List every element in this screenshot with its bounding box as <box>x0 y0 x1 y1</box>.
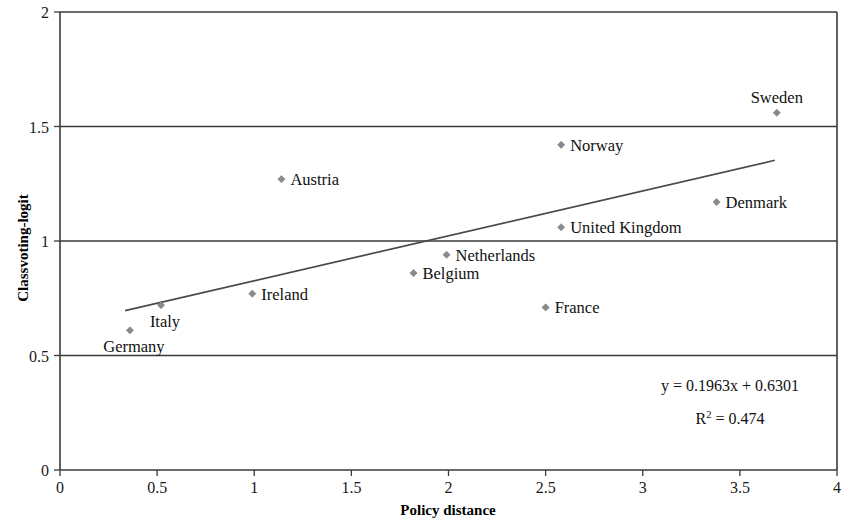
data-point-label: Italy <box>150 312 181 331</box>
data-point-labels: GermanyItalyIrelandAustriaBelgiumNetherl… <box>103 88 803 357</box>
y-axis-title: Classvoting-logit <box>15 194 31 302</box>
data-point-label: Belgium <box>423 264 480 283</box>
scatter-chart: 00.511.52 00.511.522.533.54 GermanyItaly… <box>0 0 849 524</box>
x-axis-title: Policy distance <box>400 502 496 518</box>
data-point-label: Denmark <box>726 193 788 212</box>
x-tick-label: 1 <box>250 479 258 496</box>
x-tick-label: 3 <box>639 479 647 496</box>
data-point-marker <box>278 176 285 183</box>
y-axis-tick-labels: 00.511.52 <box>29 4 49 479</box>
data-point-marker <box>410 269 417 276</box>
data-point-marker <box>126 327 133 334</box>
x-tick-label: 1.5 <box>341 479 361 496</box>
r-squared-prefix: R <box>696 410 707 427</box>
r-squared-label: R2 = 0.474 <box>696 409 765 427</box>
data-point-marker <box>558 141 565 148</box>
y-tick-label: 0.5 <box>29 348 49 365</box>
data-point-label: Germany <box>103 337 165 356</box>
tick-marks <box>54 12 837 476</box>
data-point-label: Sweden <box>751 88 803 107</box>
x-tick-label: 0.5 <box>147 479 167 496</box>
x-tick-label: 3.5 <box>730 479 750 496</box>
y-tick-label: 2 <box>41 4 49 21</box>
y-tick-label: 0 <box>41 462 49 479</box>
regression-equation-label: y = 0.1963x + 0.6301 <box>661 377 799 395</box>
x-tick-label: 4 <box>833 479 841 496</box>
x-tick-label: 2.5 <box>536 479 556 496</box>
data-point-label: Norway <box>570 136 624 155</box>
x-tick-label: 0 <box>56 479 64 496</box>
data-point-marker <box>558 224 565 231</box>
x-tick-label: 2 <box>445 479 453 496</box>
r-squared-value: = 0.474 <box>711 410 764 427</box>
data-point-label: United Kingdom <box>570 218 682 237</box>
data-point-marker <box>773 109 780 116</box>
data-point-marker <box>713 198 720 205</box>
data-point-marker <box>443 251 450 258</box>
plot-canvas: 00.511.52 00.511.522.533.54 GermanyItaly… <box>0 0 849 524</box>
y-tick-label: 1 <box>41 233 49 250</box>
data-point-marker <box>542 304 549 311</box>
data-point-label: Ireland <box>261 285 308 304</box>
data-point-label: France <box>555 298 600 317</box>
y-tick-label: 1.5 <box>29 119 49 136</box>
data-point-marker <box>249 290 256 297</box>
data-point-markers <box>126 109 780 334</box>
data-point-label: Netherlands <box>456 246 536 265</box>
x-axis-tick-labels: 00.511.522.533.54 <box>56 479 841 496</box>
data-point-label: Austria <box>290 170 339 189</box>
